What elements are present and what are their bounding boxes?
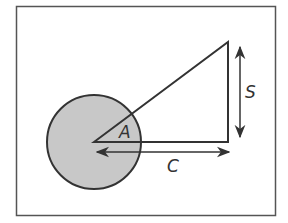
- trig-diagram: A S C: [0, 0, 288, 223]
- angle-label-a: A: [118, 122, 131, 142]
- frame-border: [17, 7, 276, 216]
- side-label-s: S: [245, 82, 256, 102]
- side-label-c: C: [167, 156, 179, 176]
